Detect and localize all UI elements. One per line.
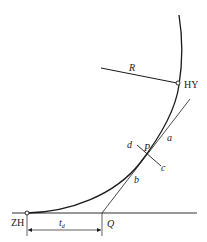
radius-label: R [128,62,135,73]
hy-label: HY [184,79,198,90]
tangent-label-a: a [167,132,172,143]
distance-label: td [59,217,66,229]
zh-label: ZH [11,217,24,228]
point-q-label: Q [107,218,115,229]
zh-point-marker [25,211,29,215]
normal-label-c: c [161,162,166,173]
hy-point-marker [176,81,180,85]
tangent-line [102,99,190,213]
normal-label-d: d [127,139,133,150]
transition-curve [27,15,182,213]
tangent-label-b: b [134,174,139,185]
radius-line [101,68,177,83]
transition-curve-diagram: R HY a d P c b ZH Q td [0,0,207,242]
distance-label-subscript: d [62,223,66,229]
point-p-label: P [143,142,150,153]
